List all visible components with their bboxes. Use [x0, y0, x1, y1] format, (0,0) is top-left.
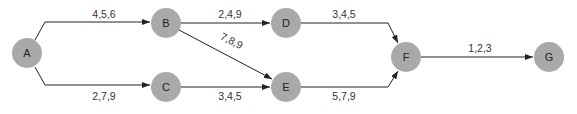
node-c: C [151, 72, 181, 102]
node-label-b: B [162, 17, 169, 29]
edge-label-d-f: 3,4,5 [332, 8, 356, 20]
edge-label-f-g: 1,2,3 [468, 42, 492, 54]
node-f: F [391, 42, 421, 72]
edge-a-b [35, 22, 150, 40]
node-label-c: C [162, 81, 170, 93]
node-label-g: G [545, 51, 554, 63]
edge-a-c [35, 67, 150, 85]
edge-label-a-c: 2,7,9 [92, 90, 116, 102]
edge-d-f [301, 23, 398, 43]
edge-label-b-d: 2,4,9 [218, 8, 242, 20]
node-b: B [151, 8, 181, 38]
network-diagram: 4,5,6 2,7,9 2,4,9 7,8,9 3,4,5 3,4,5 5,7,… [0, 0, 577, 114]
node-g: G [534, 42, 564, 72]
edge-label-c-e: 3,4,5 [218, 90, 242, 102]
edge-e-f [301, 71, 398, 87]
node-label-e: E [282, 81, 289, 93]
node-e: E [271, 72, 301, 102]
edge-label-b-e: 7,8,9 [219, 30, 245, 51]
node-d: D [271, 8, 301, 38]
edge-label-e-f: 5,7,9 [332, 90, 356, 102]
node-label-d: D [282, 17, 290, 29]
node-label-f: F [403, 51, 410, 63]
node-a: A [12, 38, 42, 68]
edge-label-a-b: 4,5,6 [92, 8, 116, 20]
node-label-a: A [23, 47, 31, 59]
